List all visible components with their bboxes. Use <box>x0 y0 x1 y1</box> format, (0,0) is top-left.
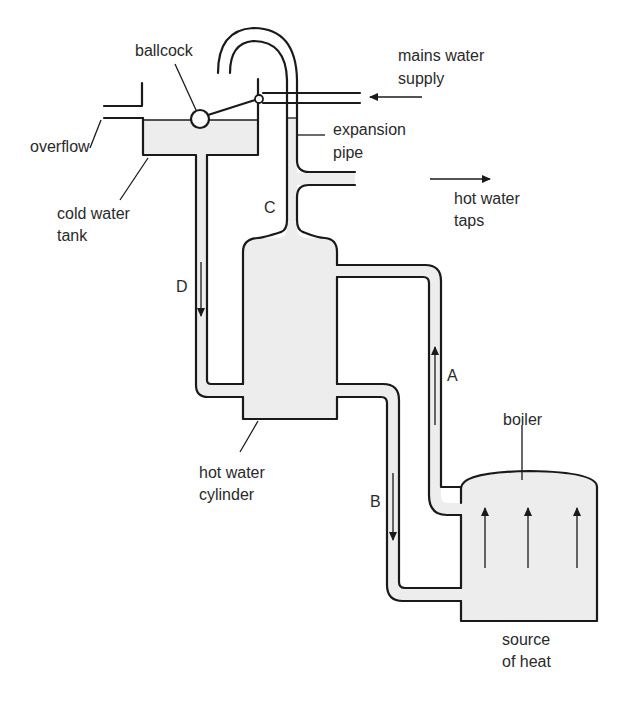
ballcock-pointer-line <box>175 64 196 110</box>
label-hot-taps-1: hot water <box>454 190 520 207</box>
label-boiler: boiler <box>503 411 543 428</box>
label-heat-1: source <box>502 631 550 648</box>
cylinder-pointer-line <box>240 421 258 452</box>
label-pipe-c: C <box>264 199 276 216</box>
cold-tank-pointer-line <box>120 158 148 200</box>
label-cylinder-1: hot water <box>199 464 265 481</box>
label-pipe-a: A <box>447 367 458 384</box>
label-pipe-d: D <box>176 278 188 295</box>
label-pipe-b: B <box>370 493 381 510</box>
label-overflow: overflow <box>30 138 90 155</box>
label-cylinder-2: cylinder <box>199 486 255 503</box>
hot-water-system-diagram: ballcock mains water supply overflow exp… <box>0 0 630 704</box>
label-ballcock: ballcock <box>135 42 194 59</box>
label-cold-tank-2: tank <box>57 227 88 244</box>
label-expansion-1: expansion <box>333 121 406 138</box>
overflow-pipe <box>104 83 143 118</box>
label-expansion-2: pipe <box>333 144 363 161</box>
label-heat-2: of heat <box>502 653 551 670</box>
pipe-b <box>337 384 461 601</box>
label-cold-tank-1: cold water <box>57 205 131 222</box>
label-mains-1: mains water <box>398 47 485 64</box>
label-mains-2: supply <box>398 70 444 87</box>
label-hot-taps-2: taps <box>454 212 484 229</box>
overflow-pointer-line <box>90 120 101 148</box>
water-fills <box>143 118 597 621</box>
